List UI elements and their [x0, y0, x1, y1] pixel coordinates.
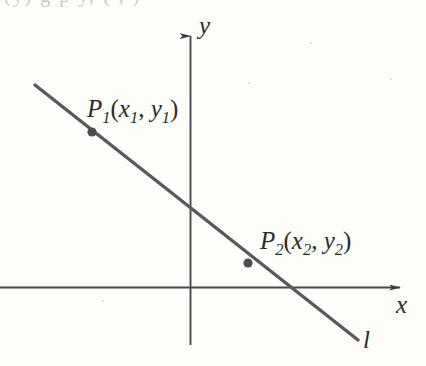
plotted-points-group [87, 127, 252, 267]
line-l-group [35, 85, 358, 340]
p2-name: P [260, 227, 275, 254]
p1-arg1-sub: 1 [130, 108, 138, 127]
figure-canvas [0, 0, 426, 366]
point-p2-label: P2(x2, y2) [260, 228, 351, 253]
line-l [35, 85, 358, 340]
p2-comma: , [311, 227, 324, 254]
p2-close-paren: ) [343, 227, 351, 254]
p1-name: P [87, 95, 102, 122]
p1-comma: , [138, 95, 151, 122]
p1-arg2-sub: 1 [162, 108, 170, 127]
x-axis-label: x [396, 292, 407, 317]
line-slope-figure: (y) g p y, ( , ) P1(x1, y1) P2(x2, y2) y… [0, 0, 426, 366]
p2-open-paren: ( [284, 227, 292, 254]
point-p1-label: P1(x1, y1) [87, 96, 178, 121]
line-l-label: l [363, 327, 370, 352]
p1-arg1-var: x [119, 95, 130, 122]
axes-group [0, 36, 400, 345]
p1-arg2-var: y [151, 95, 162, 122]
p2-arg2-var: y [324, 227, 335, 254]
p2-subscript: 2 [275, 240, 283, 259]
p2-arg1-var: x [292, 227, 303, 254]
p1-subscript: 1 [102, 108, 110, 127]
y-axis-label: y [199, 13, 210, 38]
p2-arg1-sub: 2 [303, 240, 311, 259]
p1-close-paren: ) [170, 95, 178, 122]
point-p1-marker [87, 127, 96, 136]
p1-open-paren: ( [111, 95, 119, 122]
p2-arg2-sub: 2 [335, 240, 343, 259]
point-p2-marker [243, 258, 252, 267]
